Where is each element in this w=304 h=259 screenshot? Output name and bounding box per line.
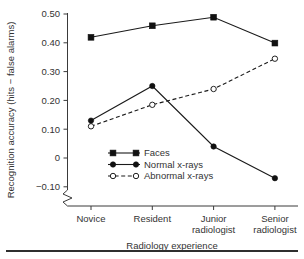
legend-label-abnormal-xrays: Abnormal x-rays [144,170,213,181]
y-tick-label-2: 0.30 [42,66,61,77]
data-point-abnormal-xrays-resident [150,102,155,107]
series-faces [88,14,278,46]
data-point-abnormal-xrays-junior-radiologist [211,86,216,91]
legend-marker-faces-left [110,150,116,156]
figure-container: 0.50 0.40 0.30 0.20 0.10 0 −0.10 Novice … [0,0,304,259]
y-tick-label-5: 0 [55,152,60,163]
data-point-normal-xrays-novice [88,118,93,123]
series-abnormal-xrays [88,56,277,129]
legend-entry-abnormal-xrays: Abnormal x-rays [108,170,213,181]
y-tick-marks [64,14,68,187]
legend-marker-normal-xrays-right [133,162,138,167]
x-tick-marks [91,206,275,210]
legend-marker-abnormal-xrays-right [133,173,138,178]
data-point-faces-junior-radiologist [211,14,217,20]
series-faces-line [91,17,275,43]
y-tick-label-6: −0.10 [36,181,60,192]
data-point-normal-xrays-resident [150,83,155,88]
legend-entry-faces: Faces [108,147,170,158]
legend-entry-normal-xrays: Normal x-rays [108,159,203,170]
legend-label-normal-xrays: Normal x-rays [144,159,203,170]
legend-label-faces: Faces [144,147,170,158]
legend-marker-abnormal-xrays-left [110,173,115,178]
x-tick-label-2: Junior [201,213,227,224]
x-tick-label-1: Resident [134,213,172,224]
data-point-normal-xrays-senior-radiologist [272,176,277,181]
legend-marker-faces-right [133,150,139,156]
data-point-abnormal-xrays-senior-radiologist [272,56,277,61]
legend-marker-normal-xrays-left [110,162,115,167]
y-axis-break-symbol [63,190,72,206]
x-tick-label-3: Senior [261,213,288,224]
y-tick-label-3: 0.20 [42,95,61,106]
x-tick-label-0: Novice [76,213,105,224]
data-point-faces-resident [149,23,155,29]
data-point-abnormal-xrays-novice [88,124,93,129]
y-tick-label-4: 0.10 [42,124,61,135]
data-point-normal-xrays-junior-radiologist [211,144,216,149]
line-chart: 0.50 0.40 0.30 0.20 0.10 0 −0.10 Novice … [0,0,304,259]
y-tick-label-0: 0.50 [42,8,61,19]
y-tick-label-1: 0.40 [42,37,61,48]
chart-legend: Faces Normal x-rays Abnormal x-rays [108,147,213,181]
data-point-faces-novice [88,34,94,40]
x-tick-label-3b: radiologist [253,224,297,235]
data-point-faces-senior-radiologist [272,40,278,46]
x-tick-label-2b: radiologist [192,224,236,235]
y-axis-title: Recognition accuracy (hits − false alarm… [5,22,16,199]
footer-divider [6,250,298,252]
